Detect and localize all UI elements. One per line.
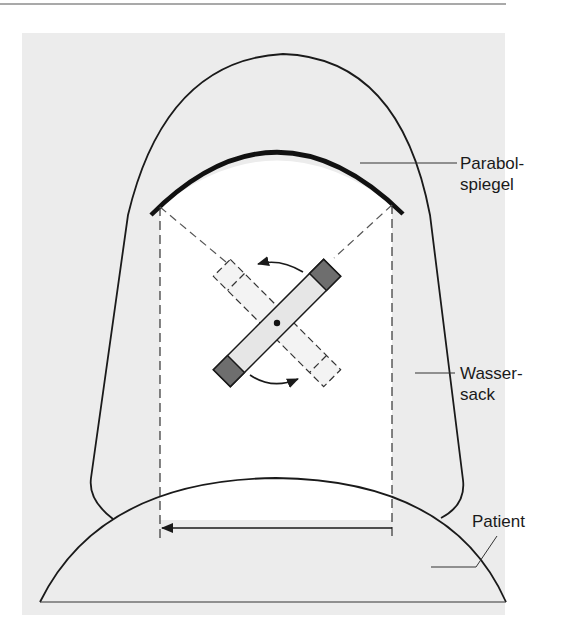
- label-patient: Patient: [472, 512, 525, 531]
- label-parabolic-mirror-line1: Parabol-: [460, 154, 524, 173]
- lithotripter-diagram: Parabol- spiegel Wasser- sack Patient: [0, 0, 571, 629]
- label-water-bag-line2: sack: [460, 385, 495, 404]
- label-parabolic-mirror-line2: spiegel: [460, 175, 514, 194]
- label-water-bag-line1: Wasser-: [460, 364, 523, 383]
- rotation-center-dot: [274, 320, 280, 326]
